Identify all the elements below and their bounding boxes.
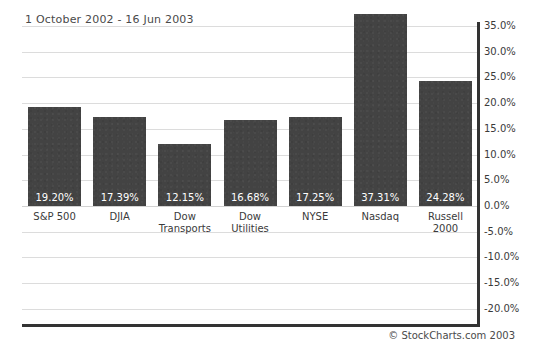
y-tick-label: 10.0%: [484, 149, 516, 160]
bar[interactable]: 17.25%: [289, 117, 342, 206]
bar[interactable]: 16.68%: [224, 120, 277, 206]
bar-group[interactable]: 17.25%NYSE: [289, 26, 342, 325]
bar-value-label: 19.20%: [28, 192, 81, 203]
bar-value-label: 17.39%: [93, 192, 146, 203]
y-tick-label: 5.0%: [484, 174, 509, 185]
y-tick-label: 30.0%: [484, 46, 516, 57]
bar-group[interactable]: 17.39%DJIA: [93, 26, 146, 325]
bar-value-label: 24.28%: [419, 192, 472, 203]
category-label-line: Russell: [407, 211, 484, 223]
y-tick-label: -15.0%: [484, 277, 519, 288]
category-label-line: 2000: [407, 223, 484, 235]
bar[interactable]: 12.15%: [158, 144, 211, 206]
bar[interactable]: 17.39%: [93, 117, 146, 206]
bar-value-label: 37.31%: [354, 192, 407, 203]
bar-value-label: 16.68%: [224, 192, 277, 203]
bar-group[interactable]: 19.20%S&P 500: [28, 26, 81, 325]
bar[interactable]: 37.31%: [354, 14, 407, 206]
y-tick-label: 0.0%: [484, 200, 509, 211]
bar[interactable]: 19.20%: [28, 107, 81, 206]
plot-area: 19.20%S&P 50017.39%DJIA12.15%DowTranspor…: [22, 26, 478, 325]
bar-value-label: 12.15%: [158, 192, 211, 203]
chart-title: 1 October 2002 - 16 Jun 2003: [25, 13, 194, 26]
bar-group[interactable]: 37.31%Nasdaq: [354, 26, 407, 325]
bar-group[interactable]: 16.68%DowUtilities: [224, 26, 277, 325]
copyright-credit: © StockCharts.com 2003: [388, 330, 515, 341]
y-axis-line: [477, 22, 480, 327]
category-label-line: Utilities: [212, 223, 289, 235]
category-label: Russell2000: [407, 211, 484, 235]
bar-value-label: 17.25%: [289, 192, 342, 203]
y-tick-label: 25.0%: [484, 71, 516, 82]
y-tick-label: 20.0%: [484, 97, 516, 108]
y-tick-label: 35.0%: [484, 20, 516, 31]
y-tick-label: -5.0%: [484, 226, 513, 237]
bar[interactable]: 24.28%: [419, 81, 472, 206]
y-tick-label: -20.0%: [484, 303, 519, 314]
bar-group[interactable]: 12.15%DowTransports: [158, 26, 211, 325]
chart-container: 1 October 2002 - 16 Jun 2003 19.20%S&P 5…: [0, 0, 541, 345]
y-tick-label: -10.0%: [484, 251, 519, 262]
x-axis-line: [22, 324, 480, 327]
bar-group[interactable]: 24.28%Russell2000: [419, 26, 472, 325]
y-tick-label: 15.0%: [484, 123, 516, 134]
